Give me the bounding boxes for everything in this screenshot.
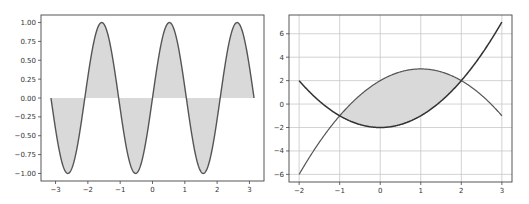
left-x-axis: −3−2−10123 — [50, 181, 251, 194]
x-tick-label: 1 — [183, 186, 187, 194]
y-tick-label: −0.50 — [15, 132, 36, 140]
x-tick-label: 3 — [247, 186, 251, 194]
y-tick-label: 0 — [280, 101, 284, 109]
y-tick-label: 0.25 — [20, 76, 36, 84]
y-tick-label: −4 — [274, 147, 285, 155]
y-tick-label: −2 — [274, 124, 284, 132]
x-tick-label: −2 — [294, 187, 304, 195]
y-tick-label: 0.75 — [20, 38, 36, 46]
y-tick-label: 2 — [280, 77, 284, 85]
x-tick-label: −2 — [83, 186, 93, 194]
x-tick-label: −1 — [335, 187, 345, 195]
left-y-axis: 1.000.750.500.250.00−0.25−0.50−0.75−1.00 — [15, 19, 41, 178]
x-tick-label: 2 — [215, 186, 219, 194]
x-tick-label: 2 — [459, 187, 463, 195]
parabolas-fill-chart: −2−10123 6420−2−4−6 — [274, 15, 512, 195]
between-curves-fill-area — [340, 69, 462, 128]
right-x-axis: −2−10123 — [294, 182, 504, 195]
x-tick-label: −1 — [115, 186, 125, 194]
y-tick-label: −1.00 — [15, 170, 36, 178]
y-tick-label: −0.25 — [15, 113, 36, 121]
x-tick-label: 0 — [150, 186, 154, 194]
y-tick-label: 0.50 — [20, 57, 36, 65]
sine-fill-chart: −3−2−10123 1.000.750.500.250.00−0.25−0.5… — [15, 15, 264, 194]
right-y-axis: 6420−2−4−6 — [274, 30, 289, 179]
y-tick-label: −0.75 — [15, 151, 36, 159]
y-tick-label: 1.00 — [20, 19, 36, 27]
fill-region — [340, 69, 462, 128]
x-tick-label: −3 — [50, 186, 60, 194]
y-tick-label: 4 — [280, 54, 285, 62]
y-tick-label: 0.00 — [20, 95, 36, 103]
x-tick-label: 3 — [500, 187, 504, 195]
y-tick-label: −6 — [274, 171, 285, 179]
x-tick-label: 1 — [419, 187, 423, 195]
x-tick-label: 0 — [378, 187, 382, 195]
y-tick-label: 6 — [280, 30, 285, 38]
figure: −3−2−10123 1.000.750.500.250.00−0.25−0.5… — [0, 0, 529, 204]
